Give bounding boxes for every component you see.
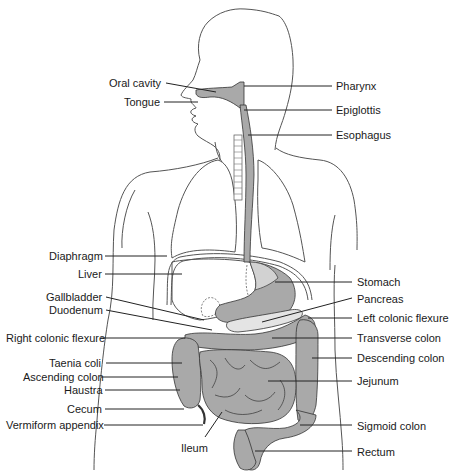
torso-left-outline [94,158,218,470]
label-rectum: Rectum [357,446,395,459]
label-epiglottis: Epiglottis [336,104,381,117]
left-arm-outer-outline [122,190,135,248]
torso-right-lower-outline [334,265,343,470]
label-pharynx: Pharynx [336,80,376,93]
label-taenia-coli: Taenia coli [49,357,101,370]
descending-colon [296,320,318,422]
torso-right-outline [276,148,357,250]
label-esophagus: Esophagus [336,129,391,142]
face-profile-outline [181,60,220,160]
gallbladder-dashed-detail [246,265,250,300]
label-duodenum: Duodenum [49,304,103,317]
oral-cavity [196,82,244,108]
label-left-colonic-flexure: Left colonic flexure [357,312,449,325]
label-descending-colon: Descending colon [357,352,444,365]
left-lung [258,160,305,262]
label-haustra: Haustra [64,384,103,397]
ascending-colon [172,338,201,408]
label-cecum: Cecum [67,403,102,416]
label-diaphragm: Diaphragm [49,250,103,263]
label-liver: Liver [78,268,102,281]
label-ascending-colon: Ascending colon [23,371,104,384]
label-ileum: Ileum [181,442,208,455]
label-sigmoid-colon: Sigmoid colon [357,420,426,433]
label-jejunum: Jejunum [357,375,399,388]
label-gallbladder: Gallbladder [46,291,102,304]
small-intestine [199,350,296,424]
left-arm-inner-outline [148,212,155,320]
vermiform-appendix [198,405,205,424]
label-pancreas: Pancreas [357,293,403,306]
label-right-colonic-flexure: Right colonic flexure [6,332,105,345]
trachea [234,135,242,200]
label-transverse-colon: Transverse colon [357,332,441,345]
right-lung [171,160,236,258]
label-oral-cavity: Oral cavity [109,77,161,90]
label-stomach: Stomach [357,276,400,289]
label-vermiform-appendix: Vermiform appendix [6,419,104,432]
right-arm-inner-outline [330,215,335,270]
label-tongue: Tongue [124,96,160,109]
